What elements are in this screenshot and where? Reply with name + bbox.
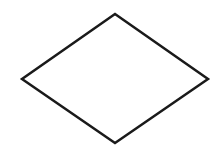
decision-diamond-shape [22, 14, 208, 143]
diagram-canvas [0, 0, 216, 147]
